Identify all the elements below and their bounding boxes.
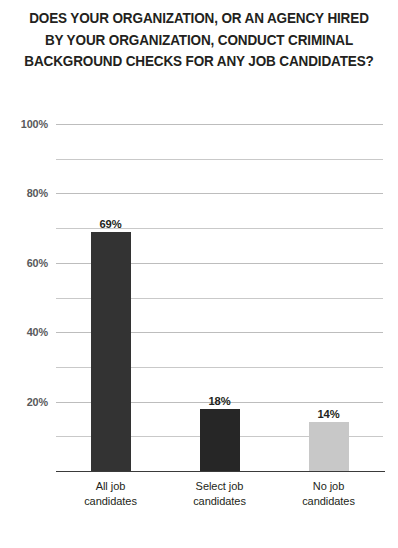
bar[interactable] bbox=[91, 232, 131, 471]
category-label: All job candidates bbox=[56, 479, 166, 508]
x-axis-baseline bbox=[56, 471, 385, 472]
bar-value-label: 69% bbox=[99, 218, 121, 230]
bar[interactable] bbox=[309, 422, 349, 471]
y-tick-label-40: 40% bbox=[0, 326, 48, 338]
bar-group: 18% bbox=[200, 124, 240, 471]
bar-group: 14% bbox=[309, 124, 349, 471]
y-tick-label-60: 60% bbox=[0, 257, 48, 269]
y-tick-label-80: 80% bbox=[0, 187, 48, 199]
y-tick-label-20: 20% bbox=[0, 396, 48, 408]
bar-group: 69% bbox=[91, 124, 131, 471]
category-label: No job candidates bbox=[274, 479, 384, 508]
y-tick-label-100: 100% bbox=[0, 118, 48, 130]
chart-title: DOES YOUR ORGANIZATION, OR AN AGENCY HIR… bbox=[19, 8, 378, 73]
bar-value-label: 14% bbox=[317, 408, 339, 420]
bar-chart-figure: DOES YOUR ORGANIZATION, OR AN AGENCY HIR… bbox=[0, 0, 398, 548]
x-axis-category-labels: All job candidatesSelect job candidatesN… bbox=[56, 479, 383, 539]
plot-area: 69%18%14% bbox=[56, 124, 383, 471]
bar[interactable] bbox=[200, 409, 240, 471]
bar-value-label: 18% bbox=[208, 395, 230, 407]
category-label: Select job candidates bbox=[165, 479, 275, 508]
y-axis-tick-labels: 100%80%60%40%20% bbox=[0, 124, 48, 471]
